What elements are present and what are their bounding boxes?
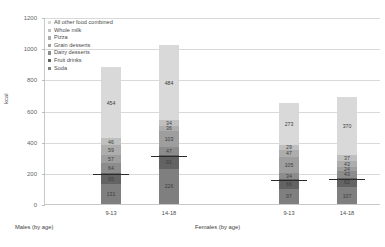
x-axis-group-label: Males (by age) [15, 224, 53, 230]
bar-segment[interactable]: 36 [159, 126, 179, 132]
y-axis-tick [42, 49, 45, 50]
bar-segment-value: 131 [101, 191, 121, 197]
legend-item-label: Soda [54, 65, 67, 73]
gridline [45, 80, 380, 81]
x-axis-group-label: Females (by age) [195, 224, 240, 230]
bar-column[interactable]: 9766341054729273 [279, 17, 299, 204]
legend-item[interactable]: Fruit drinks [48, 57, 113, 65]
y-axis-tick-label: 600 [7, 109, 37, 115]
legend-item-label: All other food combined [54, 19, 113, 27]
bar-segment-value: 47 [279, 150, 299, 156]
bar-segment-value: 47 [159, 148, 179, 154]
bar-segment-value: 62 [337, 179, 357, 185]
bar-segment-value: 37 [337, 155, 357, 161]
bar-segment-value: 66 [279, 181, 299, 187]
bar-segment-value: 370 [337, 123, 357, 129]
legend-item-label: Whole milk [54, 27, 81, 35]
bar-segment-value: 43 [337, 161, 357, 167]
y-axis-tick-label: 400 [7, 140, 37, 146]
legend-swatch-icon [48, 67, 51, 70]
legend-item[interactable]: Dairy desserts [48, 49, 113, 57]
legend-swatch-icon [48, 44, 51, 47]
y-axis-tick [42, 143, 45, 144]
bar-segment[interactable]: 97 [279, 189, 299, 204]
bar-segment[interactable]: 103 [159, 131, 179, 147]
bar-segment[interactable]: 59 [101, 145, 121, 154]
bar-segment-value: 57 [101, 156, 121, 162]
bar-segment-value: 226 [159, 183, 179, 189]
x-axis-tick-label: 14-18 [149, 210, 189, 216]
y-axis-tick-label: 1200 [7, 15, 37, 21]
bar-segment[interactable]: 57 [101, 155, 121, 164]
legend-item-label: Fruit drinks [54, 57, 82, 65]
x-axis-tick-label: 14-18 [327, 210, 367, 216]
bar-segment[interactable]: 91 [159, 155, 179, 169]
legend-item[interactable]: Whole milk [48, 27, 113, 35]
y-axis-title: kcal [3, 93, 9, 104]
gridline [45, 143, 380, 144]
error-bar-marker [93, 174, 130, 175]
y-axis-tick-label: 800 [7, 77, 37, 83]
legend-item-label: Dairy desserts [54, 49, 90, 57]
bar-segment-value: 103 [159, 136, 179, 142]
legend-swatch-icon [48, 59, 51, 62]
stacked-bar-chart: kcal 02004006008001000120013165645759464… [0, 0, 385, 247]
bar-segment[interactable]: 37 [337, 155, 357, 161]
bar-segment[interactable]: 454 [101, 67, 121, 138]
bar-segment-value: 454 [101, 100, 121, 106]
legend-item[interactable]: Pizza [48, 34, 113, 42]
bar-segment-value: 97 [279, 193, 299, 199]
bar-segment[interactable]: 46 [101, 138, 121, 145]
y-axis-tick [42, 205, 45, 206]
error-bar-marker [271, 180, 308, 181]
y-axis-tick-label: 1000 [7, 46, 37, 52]
bar-segment[interactable]: 105 [279, 157, 299, 173]
bar-segment[interactable]: 43 [337, 171, 357, 178]
bar-segment-value: 105 [279, 162, 299, 168]
bar-segment-value: 65 [101, 176, 121, 182]
bar-segment[interactable]: 226 [159, 169, 179, 204]
bar-segment-value: 34 [159, 120, 179, 126]
bar-segment-value: 29 [279, 144, 299, 150]
legend-item-label: Pizza [54, 34, 68, 42]
y-axis-tick [42, 80, 45, 81]
y-axis-tick [42, 174, 45, 175]
bar-segment[interactable]: 131 [101, 184, 121, 204]
bar-segment[interactable]: 47 [279, 150, 299, 157]
legend-swatch-icon [48, 21, 51, 24]
y-axis-tick [42, 112, 45, 113]
bar-segment[interactable]: 273 [279, 103, 299, 146]
bar-segment[interactable]: 484 [159, 45, 179, 120]
y-axis-tick [42, 18, 45, 19]
legend-item[interactable]: Soda [48, 65, 113, 73]
bar-segment-value: 34 [279, 173, 299, 179]
bar-segment-value: 107 [337, 193, 357, 199]
bar-segment[interactable]: 370 [337, 97, 357, 155]
bar-column[interactable]: 22691471033634484 [159, 17, 179, 204]
legend-item[interactable]: All other food combined [48, 19, 113, 27]
bar-segment[interactable]: 34 [159, 120, 179, 125]
bar-segment[interactable]: 24 [337, 167, 357, 171]
bar-column[interactable]: 1076243244337370 [337, 17, 357, 204]
error-bar-marker [329, 179, 366, 180]
gridline [45, 112, 380, 113]
bar-segment-value: 91 [159, 159, 179, 165]
chart-legend: All other food combinedWhole milkPizzaGr… [48, 19, 113, 72]
bar-segment-value: 64 [101, 165, 121, 171]
bar-segment-value: 43 [337, 171, 357, 177]
legend-swatch-icon [48, 36, 51, 39]
bar-segment[interactable]: 29 [279, 145, 299, 150]
legend-swatch-icon [48, 51, 51, 54]
bar-segment-value: 484 [159, 80, 179, 86]
legend-swatch-icon [48, 29, 51, 32]
bar-segment-value: 273 [279, 121, 299, 127]
bar-segment[interactable]: 107 [337, 187, 357, 204]
bar-segment[interactable]: 43 [337, 161, 357, 168]
bar-segment-value: 59 [101, 147, 121, 153]
bar-segment[interactable]: 34 [279, 173, 299, 178]
legend-item-label: Grain desserts [54, 42, 90, 50]
bar-segment-value: 36 [159, 125, 179, 131]
bar-segment[interactable]: 47 [159, 147, 179, 154]
legend-item[interactable]: Grain desserts [48, 42, 113, 50]
bar-segment[interactable]: 64 [101, 163, 121, 173]
